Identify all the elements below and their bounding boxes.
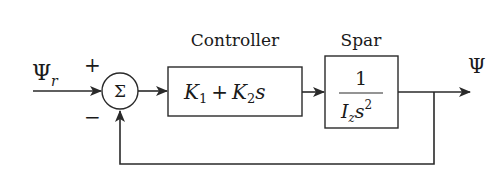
plant-numerator: 1 bbox=[355, 67, 367, 89]
output-label: Ψ bbox=[468, 54, 486, 78]
plant-title: Spar bbox=[341, 30, 383, 50]
block-diagram: Ψ r + − Σ Controller K1+K2s Spar 1 Izs2 … bbox=[0, 0, 501, 177]
input-label: Ψ r bbox=[32, 60, 59, 89]
plant-block: 1 Izs2 bbox=[325, 56, 398, 128]
sigma-symbol: Σ bbox=[114, 81, 126, 101]
minus-sign: − bbox=[84, 105, 101, 129]
input-subscript: r bbox=[51, 73, 59, 89]
summing-junction: Σ bbox=[102, 73, 138, 109]
controller-block: K1+K2s bbox=[168, 67, 302, 116]
plus-sign: + bbox=[84, 53, 101, 77]
controller-title: Controller bbox=[191, 30, 280, 50]
input-psi: Ψ bbox=[32, 60, 51, 85]
